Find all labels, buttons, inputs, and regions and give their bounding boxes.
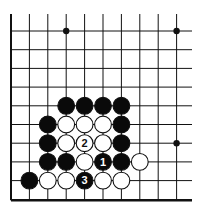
- black-stone: [39, 116, 56, 133]
- white-stone: [58, 135, 75, 152]
- star-point-icon: [173, 140, 179, 146]
- black-stone: [113, 97, 130, 114]
- stones: 213: [21, 97, 148, 189]
- white-stone: [58, 116, 75, 133]
- black-stone: [113, 135, 130, 152]
- white-stone: [76, 154, 93, 171]
- black-stone: [58, 154, 75, 171]
- black-stone: [76, 97, 93, 114]
- black-stone: [39, 154, 56, 171]
- white-stone: [76, 116, 93, 133]
- white-stone: [113, 172, 130, 189]
- star-point-icon: [173, 28, 179, 34]
- white-stone: [39, 172, 56, 189]
- black-stone: 3: [76, 172, 93, 189]
- white-stone: [58, 172, 75, 189]
- white-stone: [131, 154, 148, 171]
- move-number-label: 3: [82, 174, 88, 186]
- white-stone: 2: [76, 135, 93, 152]
- white-stone: [95, 135, 112, 152]
- black-stone: 1: [95, 154, 112, 171]
- white-stone: [95, 172, 112, 189]
- white-stone: [95, 116, 112, 133]
- star-point-icon: [63, 28, 69, 34]
- go-board-diagram: 213: [0, 0, 202, 215]
- black-stone: [113, 116, 130, 133]
- black-stone: [58, 97, 75, 114]
- black-stone: [113, 154, 130, 171]
- black-stone: [21, 172, 38, 189]
- move-number-label: 2: [82, 137, 88, 149]
- move-number-label: 1: [100, 156, 106, 168]
- black-stone: [95, 97, 112, 114]
- black-stone: [39, 135, 56, 152]
